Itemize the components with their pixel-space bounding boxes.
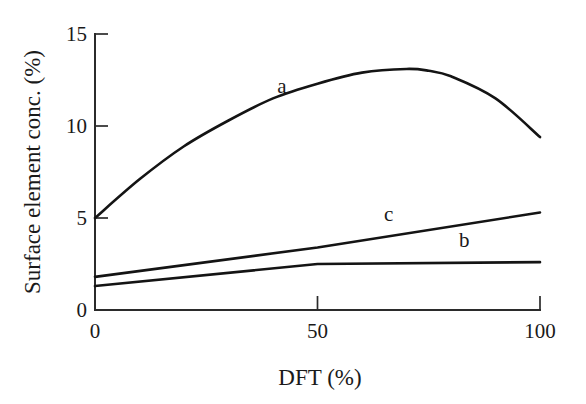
chart-canvas: 051015 050100 abc DFT (%) Surface elemen…: [0, 0, 586, 404]
y-tick-label: 15: [66, 22, 87, 46]
series-line-c: [95, 212, 540, 276]
x-tick-label: 50: [307, 319, 328, 343]
y-axis-tick-labels: 051015: [66, 22, 87, 322]
series-labels: abc: [277, 74, 469, 252]
x-axis-ticks: [318, 296, 541, 310]
y-tick-label: 10: [66, 114, 87, 138]
series-line-a: [95, 69, 540, 218]
x-axis-tick-labels: 050100: [90, 319, 556, 343]
y-tick-label: 0: [77, 298, 88, 322]
x-tick-label: 100: [524, 319, 556, 343]
series-label-c: c: [384, 202, 393, 226]
y-tick-label: 5: [77, 206, 88, 230]
chart-figure: 051015 050100 abc DFT (%) Surface elemen…: [0, 0, 586, 404]
series-label-a: a: [277, 74, 287, 98]
y-axis-title: Surface element conc. (%): [20, 50, 45, 294]
x-axis-title: DFT (%): [278, 365, 361, 390]
series-lines: [95, 69, 540, 286]
series-label-b: b: [459, 228, 470, 252]
x-tick-label: 0: [90, 319, 101, 343]
series-line-b: [95, 262, 540, 286]
y-axis-ticks: [95, 34, 108, 218]
